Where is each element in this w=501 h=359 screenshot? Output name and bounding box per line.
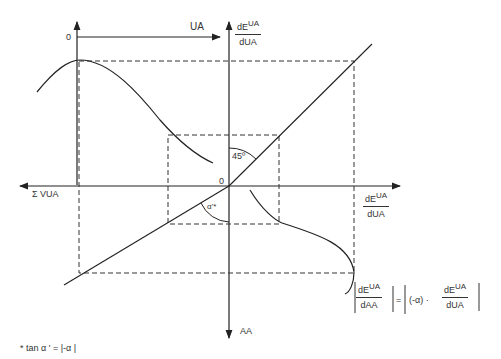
fraction-superscript: UA bbox=[369, 282, 380, 291]
fraction-numerator: dE bbox=[444, 285, 455, 295]
alpha-line bbox=[64, 186, 229, 285]
formula-lhs-fraction: dEUA dAA bbox=[356, 283, 382, 310]
fraction-denominator: dUA bbox=[235, 35, 261, 47]
formula-equals: = bbox=[396, 296, 401, 305]
right-x-fraction-label: dEUA dUA bbox=[363, 192, 389, 219]
fraction-superscript: UA bbox=[248, 19, 259, 28]
formula-alpha-factor: (-α) · bbox=[409, 296, 429, 305]
sum-vua-label: Σ VUA bbox=[32, 190, 59, 199]
fraction-superscript: UA bbox=[376, 191, 387, 200]
aa-axis-label: AA bbox=[240, 327, 252, 336]
fraction-superscript: UA bbox=[455, 282, 466, 291]
top-y-fraction-label: dEUA dUA bbox=[235, 20, 261, 47]
center-origin-label: 0 bbox=[219, 177, 224, 186]
formula-rhs-fraction: dEUA dUA bbox=[442, 283, 468, 310]
fraction-denominator: dUA bbox=[442, 298, 468, 310]
diagonal-45-line bbox=[229, 44, 372, 186]
fraction-denominator: dAA bbox=[356, 298, 382, 310]
lower-curve bbox=[250, 190, 354, 294]
top-origin-label: 0 bbox=[66, 33, 71, 42]
projection-lines bbox=[79, 61, 354, 273]
top-ua-label: UA bbox=[190, 22, 204, 32]
footnote: * tan α ' = |-α | bbox=[20, 344, 76, 353]
angle-alpha-label: α'* bbox=[207, 203, 216, 211]
upper-curve bbox=[37, 60, 213, 163]
angle-45-label: 45º bbox=[232, 152, 245, 161]
fraction-denominator: dUA bbox=[363, 207, 389, 219]
fraction-numerator: dE bbox=[237, 22, 248, 32]
fraction-numerator: dE bbox=[365, 194, 376, 204]
fraction-numerator: dE bbox=[358, 285, 369, 295]
diagram-canvas bbox=[0, 0, 501, 359]
